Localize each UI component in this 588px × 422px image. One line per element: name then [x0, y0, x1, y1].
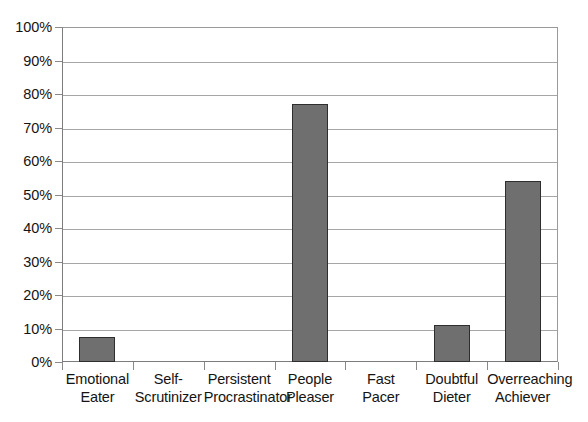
bar[interactable]	[505, 181, 541, 362]
y-axis-tick-label: 50%	[0, 187, 52, 202]
y-axis-tick-label: 60%	[0, 154, 52, 169]
y-axis-tick-mark	[55, 195, 62, 196]
y-axis-tick-label: 10%	[0, 321, 52, 336]
x-axis-category-label: PeoplePleaser	[275, 371, 346, 406]
bar-slot	[275, 27, 346, 362]
x-axis-category-label-line1: Self-	[154, 371, 183, 387]
x-axis-category-label: PersistentProcrastinator	[204, 371, 275, 406]
y-axis-tick-label: 80%	[0, 87, 52, 102]
y-axis-tick-mark	[55, 228, 62, 229]
x-axis-category-label-line1: People	[288, 371, 332, 387]
x-axis-category-label-line1: Fast	[367, 371, 395, 387]
bar-slot	[345, 27, 416, 362]
y-axis-tick-mark	[55, 329, 62, 330]
y-axis-tick-mark	[55, 128, 62, 129]
x-axis-category-label-line2: Procrastinator	[204, 389, 275, 407]
y-axis-tick-mark	[55, 161, 62, 162]
bar-series	[62, 27, 558, 362]
x-axis-category-label-line1: Overreaching	[487, 371, 572, 387]
x-axis-category-label: EmotionalEater	[62, 371, 133, 406]
x-axis-category-label: OverreachingAchiever	[487, 371, 558, 406]
y-axis-tick-mark	[55, 262, 62, 263]
bar-slot	[62, 27, 133, 362]
bar-slot	[133, 27, 204, 362]
x-axis-tick-mark	[558, 362, 559, 370]
x-axis-category-label-line2: Eater	[62, 389, 133, 407]
y-axis-tick-label: 30%	[0, 254, 52, 269]
bar-slot	[204, 27, 275, 362]
x-axis-tick-mark	[204, 362, 205, 370]
x-axis-tick-mark	[62, 362, 63, 370]
bar[interactable]	[292, 104, 328, 362]
x-axis-tick-mark	[133, 362, 134, 370]
y-axis-tick-label: 20%	[0, 288, 52, 303]
bar[interactable]	[434, 325, 470, 362]
y-axis-tick-label: 90%	[0, 53, 52, 68]
x-axis-category-label-line2: Pleaser	[275, 389, 346, 407]
y-axis-tick-label: 40%	[0, 221, 52, 236]
y-axis-tick-mark	[55, 295, 62, 296]
x-axis-category-label: Self-Scrutinizer	[133, 371, 204, 406]
x-axis-category-label-line1: Doubtful	[425, 371, 478, 387]
y-axis-tick-mark	[55, 362, 62, 363]
y-axis-tick-label: 0%	[0, 355, 52, 370]
bar-chart-figure: 0%10%20%30%40%50%60%70%80%90%100% Emotio…	[0, 0, 588, 422]
x-axis-tick-mark	[345, 362, 346, 370]
x-axis-tick-mark	[416, 362, 417, 370]
x-axis-tick-mark	[275, 362, 276, 370]
bar-slot	[487, 27, 558, 362]
x-axis-tick-mark	[487, 362, 488, 370]
y-axis-tick-mark	[55, 94, 62, 95]
x-axis-category-label-line2: Dieter	[416, 389, 487, 407]
x-axis-category-label-line1: Emotional	[66, 371, 129, 387]
y-axis-tick-label: 70%	[0, 120, 52, 135]
bar[interactable]	[79, 337, 115, 362]
y-axis-tick-label: 100%	[0, 20, 52, 35]
x-axis-category-label-line1: Persistent	[208, 371, 271, 387]
x-axis-category-label: DoubtfulDieter	[416, 371, 487, 406]
y-axis-tick-mark	[55, 61, 62, 62]
x-axis-category-label-line2: Scrutinizer	[133, 389, 204, 407]
x-axis-category-label-line2: Achiever	[487, 389, 558, 407]
x-axis-category-label-line2: Pacer	[345, 389, 416, 407]
y-axis-tick-mark	[55, 27, 62, 28]
bar-slot	[416, 27, 487, 362]
x-axis-category-label: FastPacer	[345, 371, 416, 406]
